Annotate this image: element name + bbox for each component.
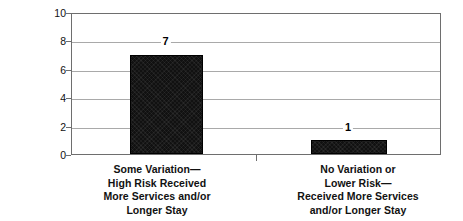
x-category-label-line: Received More Services (258, 190, 458, 204)
gridline-4 (72, 99, 440, 100)
chart-figure: % Change in Recidivism 0 2 4 6 8 10 7 1 … (0, 0, 463, 221)
y-tick-mark-0 (66, 155, 71, 156)
bar-value-label-2: 1 (343, 121, 353, 132)
bar-value-label-1: 7 (160, 36, 170, 47)
x-category-label-line: High Risk Received (62, 177, 252, 191)
y-tick-label-2: 2 (36, 121, 66, 133)
x-category-label-line: Some Variation— (62, 163, 252, 177)
gridline-2 (72, 128, 440, 129)
y-tick-label-0: 0 (36, 149, 66, 161)
bar-some-variation (130, 55, 203, 154)
gridline-8 (72, 42, 440, 43)
y-tick-label-8: 8 (36, 35, 66, 47)
x-category-label-line: More Services and/or (62, 190, 252, 204)
y-tick-label-6: 6 (36, 64, 66, 76)
x-axis-tick-mark (256, 155, 257, 161)
x-category-label-no-variation: No Variation or Lower Risk— Received Mor… (258, 163, 458, 217)
y-tick-label-10: 10 (36, 7, 66, 19)
x-category-label-line: No Variation or (258, 163, 458, 177)
x-category-label-some-variation: Some Variation— High Risk Received More … (62, 163, 252, 217)
plot-area (71, 13, 441, 155)
gridline-6 (72, 71, 440, 72)
y-tick-label-4: 4 (36, 92, 66, 104)
x-category-label-line: Longer Stay (62, 204, 252, 218)
x-category-label-line: Lower Risk— (258, 177, 458, 191)
bar-no-variation (311, 140, 387, 154)
x-category-label-line: and/or Longer Stay (258, 204, 458, 218)
y-axis-tick-labels: 0 2 4 6 8 10 (33, 13, 66, 155)
